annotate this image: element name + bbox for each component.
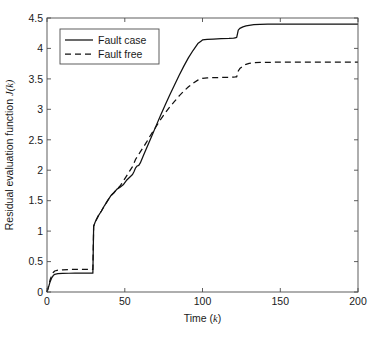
y-axis-title-italic: J(k): [4, 79, 16, 96]
legend-label-fault-case: Fault case: [98, 34, 147, 46]
x-axis-title-main: Time (: [184, 312, 214, 324]
y-tick-label: 1: [37, 225, 43, 237]
x-axis-tick-labels: 0 50 100 150 200: [44, 295, 367, 307]
y-tick-label: 4.5: [28, 12, 43, 24]
legend-label-fault-free: Fault free: [98, 48, 143, 60]
x-axis-title-close: ): [218, 312, 222, 324]
y-axis-title-main: Residual evaluation function: [3, 96, 15, 230]
y-tick-label: 3: [37, 103, 43, 115]
y-tick-label: 0: [37, 286, 43, 298]
y-tick-label: 2: [37, 164, 43, 176]
chart-legend: Fault case Fault free: [60, 29, 159, 64]
x-tick-label: 100: [194, 295, 212, 307]
x-axis-title: Time (k): [184, 312, 222, 324]
x-tick-label: 50: [119, 295, 131, 307]
y-tick-label: 1.5: [28, 194, 43, 206]
y-tick-label: 3.5: [28, 73, 43, 85]
y-tick-label: 2.5: [28, 134, 43, 146]
y-axis-title: Residual evaluation function J(k): [3, 79, 16, 230]
x-tick-label: 200: [349, 295, 367, 307]
chart-canvas: 0 0.5 1 1.5 2 2.5 3 3.5 4 4.5 0 50 100 1…: [0, 0, 377, 340]
x-tick-label: 150: [272, 295, 290, 307]
y-tick-label: 4: [37, 42, 43, 54]
y-axis-tick-labels: 0 0.5 1 1.5 2 2.5 3 3.5 4 4.5: [28, 12, 43, 298]
x-tick-label: 0: [44, 295, 50, 307]
y-tick-label: 0.5: [28, 255, 43, 267]
chart-figure: 0 0.5 1 1.5 2 2.5 3 3.5 4 4.5 0 50 100 1…: [0, 0, 377, 340]
